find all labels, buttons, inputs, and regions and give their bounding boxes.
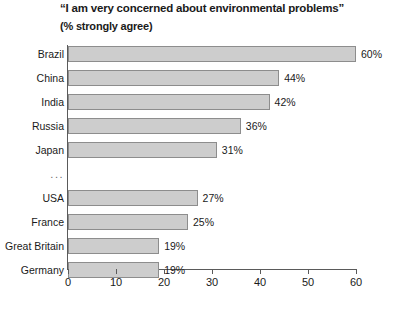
category-label: Great Britain [0,238,64,255]
bar [68,118,241,134]
bar-value-label: 60% [361,46,382,63]
bar-value-label: 42% [275,94,296,111]
bar [68,190,198,206]
x-axis-tick [164,269,165,274]
x-axis-tick-label: 10 [101,276,131,288]
x-axis-tick-label: 20 [149,276,179,288]
category-label: Russia [0,118,64,135]
bar [68,94,270,110]
bar-value-label: 36% [246,118,267,135]
bar [68,142,217,158]
x-axis-tick [356,269,357,274]
x-axis-tick-label: 50 [293,276,323,288]
x-axis-tick [212,269,213,274]
category-label: France [0,214,64,231]
ellipsis-break-label: ... [0,166,64,183]
x-axis-tick-label: 30 [197,276,227,288]
x-axis-tick-label: 40 [245,276,275,288]
x-axis-tick-label: 0 [53,276,83,288]
bar [68,214,188,230]
bar [68,46,356,62]
bar-value-label: 19% [164,238,185,255]
x-axis-tick [116,269,117,274]
bar [68,70,279,86]
category-label: India [0,94,64,111]
x-axis-tick [308,269,309,274]
category-label: China [0,70,64,87]
bar-value-label: 27% [203,190,224,207]
plot-area: Brazil60%China44%India42%Russia36%Japan3… [0,0,402,311]
chart-container: “I am very concerned about environmental… [0,0,402,311]
category-label: USA [0,190,64,207]
bar [68,238,159,254]
bar-value-label: 44% [284,70,305,87]
x-axis-tick-label: 60 [341,276,371,288]
x-axis-tick [68,269,69,274]
bar-value-label: 25% [193,214,214,231]
x-axis-tick [260,269,261,274]
category-label: Japan [0,142,64,159]
category-label: Brazil [0,46,64,63]
bar-value-label: 31% [222,142,243,159]
